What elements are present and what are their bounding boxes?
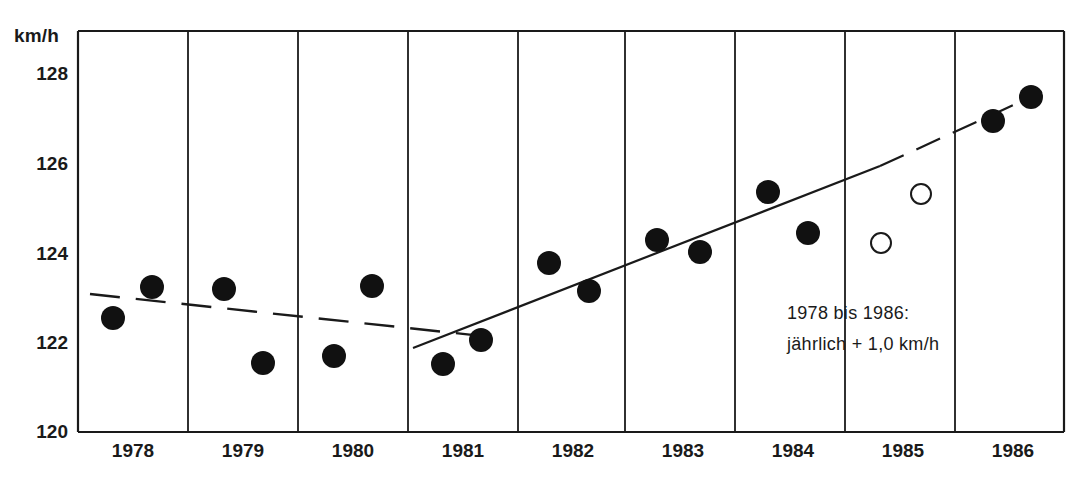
- data-points-open: [871, 184, 931, 253]
- data-point: [251, 351, 275, 375]
- data-point: [577, 279, 601, 303]
- data-point: [360, 274, 384, 298]
- data-point: [537, 251, 561, 275]
- trend-line-declining-dashed: [90, 294, 492, 337]
- plot-frame: [78, 31, 1064, 432]
- data-point: [469, 328, 493, 352]
- data-point: [212, 277, 236, 301]
- data-point: [1019, 85, 1043, 109]
- data-point: [322, 344, 346, 368]
- data-point: [981, 109, 1005, 133]
- data-point: [431, 352, 455, 376]
- data-point: [101, 306, 125, 330]
- data-point-open: [871, 233, 891, 253]
- panel-separators: [188, 31, 955, 432]
- data-point: [688, 240, 712, 264]
- data-point: [796, 221, 820, 245]
- trend-line-rising-solid: [413, 166, 880, 348]
- data-points-filled: [101, 85, 1043, 376]
- data-point: [645, 228, 669, 252]
- data-point-open: [911, 184, 931, 204]
- plot-area: [0, 0, 1081, 479]
- data-point: [140, 275, 164, 299]
- trend-line-rising-dashed-extension: [880, 92, 1042, 166]
- data-point: [756, 180, 780, 204]
- chart-container: km/h 128 126 124 122 120 1978 1979 1980 …: [0, 0, 1081, 479]
